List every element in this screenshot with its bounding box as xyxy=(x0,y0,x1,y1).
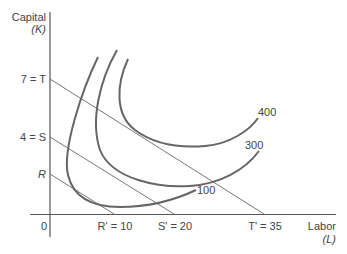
isoquant-diagram: Capital (K) 7 = T 4 = S R 0 R' = 10 S' =… xyxy=(0,0,347,254)
x-tick-T-prime: T' = 35 xyxy=(248,220,282,232)
isocost-line-R xyxy=(50,174,114,214)
isoquant-label-400: 400 xyxy=(258,106,276,118)
y-axis-label: Capital xyxy=(12,11,46,23)
y-axis-label-symbol: (K) xyxy=(31,23,46,35)
isoquant-100 xyxy=(67,57,196,207)
isoquant-label-300: 300 xyxy=(245,139,263,151)
y-tick-T: 7 = T xyxy=(21,73,46,85)
x-tick-R-prime: R' = 10 xyxy=(98,220,133,232)
y-tick-R: R xyxy=(38,168,46,180)
y-tick-S: 4 = S xyxy=(20,131,46,143)
x-axis-label-symbol: (L) xyxy=(323,233,337,245)
x-axis-label: Labor xyxy=(308,220,336,232)
isoquant-300 xyxy=(96,50,259,186)
origin-label: 0 xyxy=(41,220,47,232)
isoquant-400-part xyxy=(119,59,258,147)
x-tick-S-prime: S' = 20 xyxy=(158,220,192,232)
isoquant-label-100: 100 xyxy=(197,184,215,196)
